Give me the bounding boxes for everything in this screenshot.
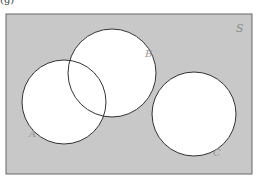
set-b-label: B: [144, 48, 152, 59]
set-a-label: A: [28, 128, 36, 139]
venn-diagram: S A B C: [0, 0, 257, 184]
set-c-label: C: [213, 147, 221, 158]
universe-label: S: [236, 22, 244, 35]
